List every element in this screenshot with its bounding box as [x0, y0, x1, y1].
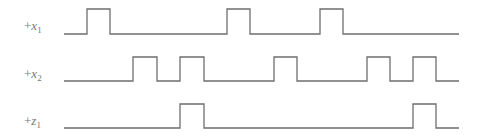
- waveform-x2: [64, 57, 459, 81]
- waveform-x1: [64, 9, 459, 34]
- waveform-z1: [64, 104, 459, 128]
- waveforms: [0, 0, 481, 137]
